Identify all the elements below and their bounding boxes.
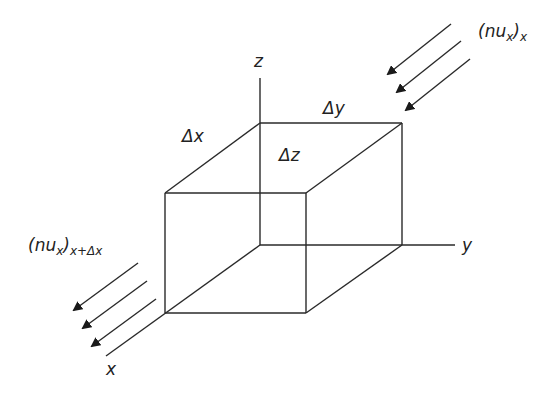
dy-label: Δy [321,98,346,118]
flux-out-arrows [74,263,156,346]
arrow-icon [397,41,461,92]
arrow-icon [74,263,138,310]
arrow-icon [388,24,451,74]
flux-out-label: (nux)x+Δx [28,235,103,258]
dz-label: Δz [277,145,301,165]
flux-in-label: (nux)x [478,21,528,44]
control-volume-diagram: z y x Δx Δy Δz (nux)x (nux)x+Δx [0,0,549,396]
arrow-icon [83,281,147,328]
z-axis-label: z [253,51,264,71]
arrow-icon [406,59,470,110]
x-axis-label: x [105,359,117,379]
x-axis [106,245,260,356]
dx-label: Δx [180,126,205,146]
flux-in-arrows [388,24,470,110]
y-axis-label: y [461,235,473,255]
arrow-icon [92,299,156,346]
